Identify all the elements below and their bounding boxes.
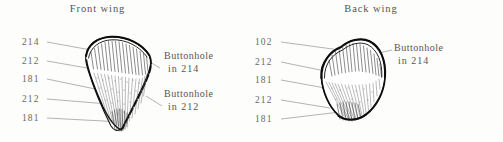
back-label-212-upper: 212 xyxy=(255,58,273,68)
front-callout-buttonhole-212: Buttonhole in 212 xyxy=(164,88,213,113)
back-label-102-upper: 102 xyxy=(255,38,273,48)
back-label-212-lower: 212 xyxy=(255,96,273,106)
front-label-181-middle: 181 xyxy=(22,75,40,85)
front-label-181-lower: 181 xyxy=(22,114,40,124)
back-label-181-middle: 181 xyxy=(255,76,273,86)
panel-title-front-wing: Front wing xyxy=(0,3,223,14)
front-label-212-upper: 212 xyxy=(22,57,40,67)
front-callout-buttonhole-212-line2: in 212 xyxy=(168,101,213,114)
front-callout-buttonhole-214: Buttonhole in 214 xyxy=(164,50,213,75)
back-label-181-lower: 181 xyxy=(255,115,273,125)
panel-back-wing: Back wing 102 212 181 212 181 Buttonhole… xyxy=(251,0,503,142)
back-callout-buttonhole-214: Buttonhole in 214 xyxy=(394,42,443,67)
front-label-212-lower: 212 xyxy=(22,95,40,105)
panel-front-wing: Front wing 214 212 181 212 181 Buttonhol… xyxy=(0,0,251,142)
wing-embroidery-diagram: Front wing 214 212 181 212 181 Buttonhol… xyxy=(0,0,503,142)
front-callout-buttonhole-214-line1: Buttonhole xyxy=(164,50,213,61)
panel-title-back-wing: Back wing xyxy=(245,3,497,14)
front-callout-buttonhole-214-line2: in 214 xyxy=(168,63,213,76)
front-label-214-upper: 214 xyxy=(22,38,40,48)
back-callout-buttonhole-214-line2: in 214 xyxy=(398,55,443,68)
back-callout-buttonhole-214-line1: Buttonhole xyxy=(394,42,443,53)
front-callout-buttonhole-212-line1: Buttonhole xyxy=(164,88,213,99)
